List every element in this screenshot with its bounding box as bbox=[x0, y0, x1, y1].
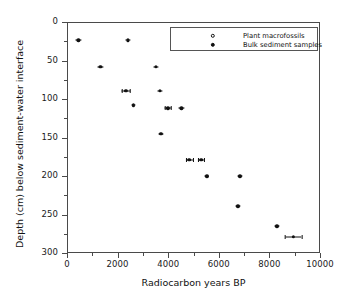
legend-entry-bulk-sediment-samples: Bulk sediment samples bbox=[171, 39, 317, 50]
x-axis-title: Radiocarbon years BP bbox=[67, 277, 320, 288]
x-axis-minor-tick bbox=[92, 253, 93, 256]
x-axis-tick bbox=[320, 253, 321, 258]
age-depth-scatter-figure: 0200040006000800010000050100150200250300… bbox=[0, 0, 347, 307]
y-axis-minor-tick bbox=[64, 195, 67, 196]
legend-label: Bulk sediment samples bbox=[243, 41, 322, 49]
chart-legend: Plant macrofossils Bulk sediment samples bbox=[170, 27, 318, 51]
x-axis-tick-label: 10000 bbox=[290, 259, 347, 269]
data-point bbox=[76, 36, 82, 44]
filled-circle-marker-icon bbox=[188, 158, 192, 162]
filled-circle-marker-icon bbox=[292, 235, 296, 239]
x-axis-tick bbox=[118, 253, 119, 258]
filled-circle-marker-icon bbox=[124, 89, 128, 93]
y-axis-tick bbox=[62, 61, 67, 62]
x-axis-tick bbox=[269, 253, 270, 258]
y-axis-tick-label: 0 bbox=[0, 16, 58, 26]
data-point bbox=[157, 87, 163, 95]
error-bar-cap bbox=[171, 106, 172, 110]
data-point bbox=[236, 202, 241, 210]
y-axis-tick bbox=[62, 176, 67, 177]
x-axis-tick bbox=[67, 253, 68, 258]
x-axis-minor-tick bbox=[295, 253, 296, 256]
error-bar-cap bbox=[130, 89, 131, 93]
y-axis-minor-tick bbox=[64, 80, 67, 81]
y-axis-tick bbox=[62, 253, 67, 254]
y-axis-tick-label: 250 bbox=[0, 209, 58, 219]
data-point bbox=[275, 222, 280, 230]
y-axis-tick-label: 150 bbox=[0, 132, 58, 142]
filled-circle-marker-icon bbox=[158, 89, 162, 93]
y-axis-minor-tick bbox=[64, 41, 67, 42]
data-point bbox=[186, 156, 192, 164]
y-axis-title: Depth (cm) below sediment-water interfac… bbox=[14, 40, 25, 248]
filled-circle-marker-icon bbox=[159, 132, 163, 136]
filled-circle-marker-icon bbox=[275, 224, 279, 228]
y-axis-tick bbox=[62, 215, 67, 216]
filled-circle-marker-icon bbox=[131, 103, 135, 107]
y-axis-minor-tick bbox=[64, 157, 67, 158]
filled-circle-marker-icon bbox=[166, 106, 170, 110]
filled-circle-marker-icon bbox=[211, 42, 215, 46]
y-axis-tick-label: 300 bbox=[0, 247, 58, 257]
data-point bbox=[121, 87, 130, 95]
error-bar-cap bbox=[285, 235, 286, 239]
x-axis-tick bbox=[219, 253, 220, 258]
data-point bbox=[238, 172, 243, 180]
y-axis-tick bbox=[62, 138, 67, 139]
filled-circle-marker-icon bbox=[199, 158, 203, 162]
data-point bbox=[153, 63, 159, 71]
plot-area bbox=[67, 22, 320, 253]
y-axis-tick-label: 50 bbox=[0, 55, 58, 65]
y-axis-tick-label: 100 bbox=[0, 93, 58, 103]
data-point bbox=[159, 130, 164, 138]
x-axis-minor-tick bbox=[143, 253, 144, 256]
x-axis-minor-tick bbox=[244, 253, 245, 256]
y-axis-tick-label: 200 bbox=[0, 170, 58, 180]
data-point bbox=[98, 63, 104, 71]
filled-circle-marker-icon bbox=[99, 65, 103, 69]
data-point bbox=[131, 101, 136, 109]
data-point bbox=[204, 172, 209, 180]
data-point bbox=[164, 104, 171, 112]
error-bar-cap bbox=[302, 235, 303, 239]
filled-circle-marker-icon bbox=[126, 39, 130, 43]
open-circle-marker-icon bbox=[211, 33, 215, 37]
filled-circle-marker-icon bbox=[77, 39, 81, 43]
y-axis-tick bbox=[62, 99, 67, 100]
filled-circle-marker-icon bbox=[236, 204, 240, 208]
error-bar-cap bbox=[121, 89, 122, 93]
x-axis-minor-tick bbox=[194, 253, 195, 256]
data-point bbox=[198, 156, 204, 164]
error-bar-cap bbox=[204, 158, 205, 162]
filled-circle-marker-icon bbox=[238, 174, 242, 178]
y-axis-minor-tick bbox=[64, 118, 67, 119]
data-point bbox=[285, 233, 302, 241]
y-axis-minor-tick bbox=[64, 234, 67, 235]
filled-circle-marker-icon bbox=[180, 106, 184, 110]
x-axis-tick bbox=[168, 253, 169, 258]
data-point bbox=[179, 104, 185, 112]
error-bar-cap bbox=[192, 158, 193, 162]
y-axis-tick bbox=[62, 22, 67, 23]
data-point bbox=[125, 36, 131, 44]
filled-circle-marker-icon bbox=[205, 174, 209, 178]
filled-circle-marker-icon bbox=[154, 65, 158, 69]
